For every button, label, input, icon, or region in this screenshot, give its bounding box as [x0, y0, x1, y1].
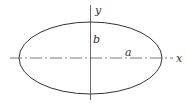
- x-axis-label: x: [176, 52, 183, 65]
- semi-minor-label: b: [93, 33, 100, 46]
- ellipse-diagram: y x b a: [0, 0, 190, 105]
- semi-major-label: a: [125, 46, 132, 59]
- y-axis-label: y: [94, 4, 102, 17]
